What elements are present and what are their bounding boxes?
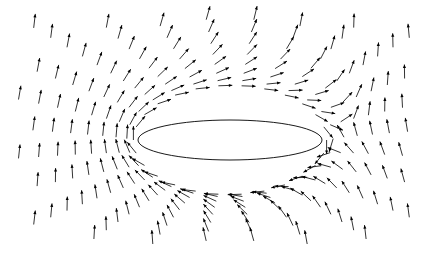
arrow-head <box>353 14 356 18</box>
arrow-head <box>167 99 171 102</box>
arrow-head <box>68 34 71 38</box>
arrow-head <box>337 209 340 213</box>
arrow-head <box>352 60 355 64</box>
arrow-head <box>318 99 322 102</box>
arrow-head <box>91 78 94 82</box>
arrow-head <box>19 86 22 90</box>
arrow-head <box>203 79 207 82</box>
arrow-head <box>254 32 257 36</box>
arrow-head <box>289 178 293 181</box>
arrow-head <box>340 102 344 105</box>
arrow-head <box>93 225 96 229</box>
arrow-head <box>74 141 77 145</box>
arrow-head <box>271 186 275 189</box>
arrow-head <box>94 184 97 188</box>
arrow-head <box>295 25 298 29</box>
arrow-head <box>380 142 383 146</box>
arrow-head <box>108 105 111 109</box>
arrow-head <box>93 102 96 106</box>
arrow-head <box>350 217 353 221</box>
arrow-head <box>132 36 135 40</box>
arrow-head <box>107 14 110 18</box>
arrow-head <box>299 89 303 92</box>
arrow-head <box>382 165 385 169</box>
arrow-head <box>386 119 389 123</box>
arrow-head <box>332 36 335 40</box>
arrow-head <box>215 32 218 36</box>
arrow-head <box>404 118 407 122</box>
arrow-head <box>105 216 108 220</box>
arrow-head <box>300 12 303 16</box>
arrow-head <box>356 106 359 110</box>
arrow-head <box>162 212 165 216</box>
arrow-head <box>58 94 61 98</box>
arrow-head <box>231 196 235 199</box>
arrow-head <box>325 90 329 93</box>
arrow-head <box>383 98 386 102</box>
arrow-head <box>74 72 77 76</box>
arrow-head <box>373 191 376 195</box>
arrow-head <box>208 6 211 10</box>
arrow-head <box>253 68 257 71</box>
arrow-head <box>304 80 308 83</box>
vortex-ellipse <box>138 120 322 160</box>
arrow-head <box>71 164 74 168</box>
arrow-head <box>253 57 257 60</box>
quiver-canvas <box>0 0 436 255</box>
arrow-head <box>295 96 299 99</box>
arrow-head <box>180 188 184 191</box>
arrow-head <box>308 166 312 169</box>
arrow-head <box>106 179 109 183</box>
arrow-head <box>312 106 316 109</box>
arrow-head <box>304 230 307 234</box>
arrow-head <box>203 218 206 222</box>
arrow-head <box>126 125 129 129</box>
arrow-head <box>38 58 41 62</box>
arrow-head <box>406 203 409 207</box>
arrow-head <box>257 193 261 196</box>
arrow-head <box>295 221 298 225</box>
arrow-head <box>229 84 233 87</box>
arrow-head <box>141 170 145 173</box>
arrow-head <box>157 221 160 225</box>
arrow-head <box>349 114 353 117</box>
arrow-head <box>353 122 356 126</box>
arrow-head <box>54 168 57 172</box>
arrow-head <box>377 42 380 46</box>
arrow-head <box>341 70 344 74</box>
arrow-head <box>56 142 59 146</box>
arrow-head <box>403 65 406 69</box>
arrow-head <box>36 172 39 176</box>
arrow-head <box>281 186 285 189</box>
arrow-head <box>317 155 321 158</box>
arrow-head <box>86 161 89 165</box>
vector-field-plot <box>0 0 436 255</box>
arrow-head <box>387 71 390 75</box>
arrow-head <box>39 90 42 94</box>
arrow-head <box>89 140 92 144</box>
arrow-head <box>185 91 189 94</box>
arrow-head <box>253 78 257 81</box>
arrow-head <box>372 78 375 82</box>
arrow-head <box>332 112 336 115</box>
arrow-head <box>151 230 154 234</box>
arrow-head <box>252 85 256 88</box>
arrow-head <box>99 52 102 56</box>
arrow-head <box>132 126 135 130</box>
arrow-head <box>162 13 165 17</box>
arrow-head <box>400 94 403 98</box>
arrow-head <box>280 72 284 75</box>
arrow-head <box>119 25 122 29</box>
arrow-head <box>80 190 83 194</box>
arrow-head <box>389 197 392 201</box>
arrow-head <box>112 156 115 160</box>
arrow-head <box>173 76 177 79</box>
arrow-group <box>18 6 410 244</box>
arrow-head <box>66 197 69 201</box>
arrow-head <box>222 56 226 59</box>
arrow-head <box>313 196 316 200</box>
arrow-head <box>33 116 36 120</box>
arrow-head <box>391 33 394 37</box>
arrow-head <box>342 25 345 29</box>
arrow-head <box>363 51 366 55</box>
